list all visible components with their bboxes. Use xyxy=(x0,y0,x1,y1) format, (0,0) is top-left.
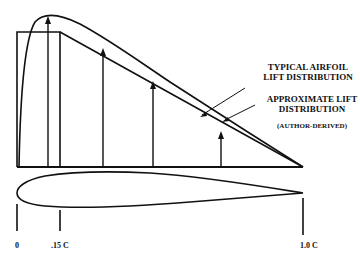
legend-approximate-line1: APPROXIMATE LIFT xyxy=(267,94,358,104)
lift-distribution-diagram: TYPICAL AIRFOIL LIFT DISTRIBUTION APPROX… xyxy=(0,0,360,262)
legend-typical-line2: LIFT DISTRIBUTION xyxy=(263,72,353,82)
lift-arrow-2 xyxy=(100,48,106,167)
legend-approximate-line2: DISTRIBUTION xyxy=(279,104,346,114)
label-quarter-chord: .15 C xyxy=(51,241,69,250)
airfoil-profile xyxy=(17,172,303,207)
lift-arrow-1 xyxy=(45,16,51,167)
leader-typical xyxy=(202,88,245,115)
leader-approximate xyxy=(225,105,255,120)
leader-typical-arrowhead xyxy=(200,112,207,117)
lift-arrow-4 xyxy=(218,131,224,167)
legend-author-note: (AUTHOR-DERIVED) xyxy=(277,122,348,130)
label-full-chord: 1.0 C xyxy=(300,241,318,250)
typical-lift-curve xyxy=(19,15,303,167)
label-zero: 0 xyxy=(15,241,19,250)
approximate-lift-rectangle xyxy=(17,32,60,167)
lift-arrow-3 xyxy=(150,81,156,167)
legend-typical-line1: TYPICAL AIRFOIL xyxy=(268,62,348,72)
